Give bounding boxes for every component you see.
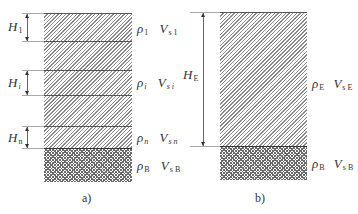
hn-tick-bottom bbox=[22, 148, 44, 149]
bedrock-b-properties: ρB Vs B bbox=[312, 157, 353, 172]
he-tick-bottom bbox=[190, 146, 220, 147]
bedrock-b bbox=[220, 146, 307, 180]
rho-b-subscript-b: B bbox=[319, 163, 324, 172]
h1-arrow-down-icon bbox=[25, 37, 29, 41]
rho-n-symbol: ρ bbox=[137, 130, 143, 145]
rho-1-symbol: ρ bbox=[137, 21, 143, 36]
hi-subscript: i bbox=[18, 82, 20, 91]
rho-e-symbol: ρ bbox=[312, 76, 318, 91]
vs-1-subscript: s 1 bbox=[168, 28, 177, 37]
equivalent-layer-properties: ρE Vs E bbox=[312, 77, 352, 92]
hn-subscript: n bbox=[18, 137, 22, 146]
he-tick-top bbox=[190, 12, 220, 13]
hi-label: Hi bbox=[8, 76, 21, 91]
soil-column-a bbox=[44, 13, 132, 148]
layer-n-properties: ρn Vs n bbox=[137, 131, 178, 146]
rho-n-subscript: n bbox=[144, 137, 148, 146]
he-arrow-down-icon bbox=[201, 142, 205, 146]
caption-a: a) bbox=[82, 192, 91, 204]
rho-b-subscript-a: B bbox=[144, 165, 149, 174]
hn-arrow-down-icon bbox=[25, 144, 29, 148]
vs-b-subscript-a: s B bbox=[170, 165, 180, 174]
rho-b-symbol-a: ρ bbox=[137, 158, 143, 173]
hi-arrow-down-icon bbox=[25, 91, 29, 95]
vs-b-subscript-b: s B bbox=[343, 163, 353, 172]
hi-tick-bottom bbox=[22, 95, 44, 96]
vs-n-symbol: V bbox=[160, 130, 168, 145]
he-arrow-up-icon bbox=[201, 13, 205, 17]
hn-label: Hn bbox=[8, 131, 22, 146]
layer-n-top-line bbox=[44, 126, 132, 127]
vs-n-subscript: s n bbox=[168, 137, 177, 146]
bedrock-a bbox=[44, 148, 132, 182]
h1-tick-bottom bbox=[22, 41, 44, 42]
layer-1-properties: ρ1 Vs 1 bbox=[137, 22, 178, 37]
layer-i-top-line bbox=[44, 70, 132, 71]
layer-i-properties: ρi Vs i bbox=[137, 76, 174, 91]
he-symbol: H bbox=[183, 67, 192, 82]
h1-label: H1 bbox=[8, 20, 22, 35]
hi-symbol: H bbox=[8, 75, 17, 90]
vs-b-symbol-b: V bbox=[334, 156, 342, 171]
vs-1-symbol: V bbox=[160, 21, 168, 36]
bedrock-a-properties: ρB Vs B bbox=[137, 159, 180, 174]
bedrock-boundary-line-a bbox=[44, 148, 132, 149]
he-dimension-line bbox=[203, 13, 204, 146]
hn-symbol: H bbox=[8, 130, 17, 145]
rho-i-subscript: i bbox=[144, 82, 146, 91]
hi-arrow-up-icon bbox=[25, 71, 29, 75]
bedrock-boundary-line-b bbox=[220, 146, 307, 147]
vs-e-symbol: V bbox=[333, 76, 341, 91]
rho-1-subscript: 1 bbox=[144, 28, 148, 37]
vs-i-subscript: s i bbox=[167, 82, 174, 91]
h1-symbol: H bbox=[8, 19, 17, 34]
he-subscript: E bbox=[193, 74, 198, 83]
rho-b-symbol-b: ρ bbox=[312, 156, 318, 171]
layer-1-bottom-line bbox=[44, 41, 132, 42]
equivalent-layer-column bbox=[220, 12, 307, 146]
he-label: HE bbox=[183, 67, 198, 84]
vs-i-symbol: V bbox=[158, 75, 166, 90]
equivalent-layer-top-line bbox=[220, 12, 307, 13]
vs-e-subscript: s E bbox=[342, 83, 352, 92]
caption-b: b) bbox=[255, 192, 265, 204]
rho-e-subscript: E bbox=[319, 83, 324, 92]
vs-b-symbol-a: V bbox=[161, 158, 169, 173]
layer-i-bottom-line bbox=[44, 95, 132, 96]
layer-1-top-line bbox=[44, 13, 132, 14]
rho-i-symbol: ρ bbox=[137, 75, 143, 90]
h1-arrow-up-icon bbox=[25, 14, 29, 18]
hn-arrow-up-icon bbox=[25, 127, 29, 131]
h1-subscript: 1 bbox=[18, 26, 22, 35]
